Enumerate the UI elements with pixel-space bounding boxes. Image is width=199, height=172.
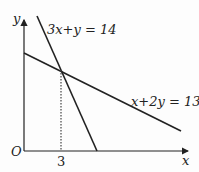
line-x-plus-2y-eq-13 <box>24 53 181 131</box>
linear-equations-diagram: y x O 3 3x+y = 14 x+2y = 13 <box>0 0 199 172</box>
origin-label: O <box>11 144 22 159</box>
label-3x-plus-y-eq-14: 3x+y = 14 <box>47 22 117 37</box>
x-axis-label: x <box>182 153 190 168</box>
y-axis-label: y <box>12 11 21 26</box>
graph-canvas: y x O 3 3x+y = 14 x+2y = 13 <box>0 0 199 172</box>
label-x-plus-2y-eq-13: x+2y = 13 <box>131 94 199 109</box>
x-tick-label-3: 3 <box>57 154 65 169</box>
